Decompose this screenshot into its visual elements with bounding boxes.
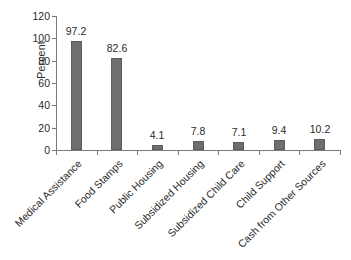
bar-value-label: 97.2	[51, 26, 101, 37]
bar-chart: Percent 120100806040200 97.282.64.17.87.…	[0, 0, 351, 260]
bar	[152, 145, 163, 150]
y-axis-tick-label: 100	[4, 33, 50, 43]
bar	[233, 142, 244, 150]
y-axis-tick	[52, 16, 56, 17]
y-axis-tick-label-slot: 80	[0, 56, 50, 66]
y-axis-tick-label-slot: 20	[0, 123, 50, 133]
x-axis-tick	[137, 151, 138, 155]
bar-value-label: 82.6	[92, 43, 142, 54]
y-axis-tick	[52, 61, 56, 62]
y-axis-tick-label: 60	[4, 78, 50, 88]
x-axis-tick	[56, 151, 57, 155]
x-axis-tick	[178, 151, 179, 155]
y-axis-tick-label: 20	[4, 123, 50, 133]
x-axis-tick	[97, 151, 98, 155]
x-axis-tick	[299, 151, 300, 155]
y-axis-tick	[52, 38, 56, 39]
y-axis-tick-label: 120	[4, 11, 50, 21]
x-axis-tick	[259, 151, 260, 155]
y-axis-tick-label-slot: 40	[0, 100, 50, 110]
y-axis-tick-label-slot: 0	[0, 145, 50, 155]
bar	[193, 141, 204, 150]
y-axis-tick	[52, 105, 56, 106]
bar	[274, 140, 285, 150]
bar	[314, 139, 325, 150]
x-axis-tick	[340, 151, 341, 155]
y-axis-tick-label: 40	[4, 100, 50, 110]
y-axis-tick	[52, 83, 56, 84]
y-axis-tick-label-slot: 60	[0, 78, 50, 88]
y-axis-tick-label-slot: 120	[0, 11, 50, 21]
y-axis-tick	[52, 128, 56, 129]
x-axis-tick	[218, 151, 219, 155]
bar-value-label: 10.2	[295, 124, 345, 135]
y-axis-tick-label: 0	[4, 145, 50, 155]
bar	[71, 41, 82, 150]
bar	[111, 58, 122, 150]
y-axis-tick-label: 80	[4, 56, 50, 66]
y-axis-tick-label-slot: 100	[0, 33, 50, 43]
